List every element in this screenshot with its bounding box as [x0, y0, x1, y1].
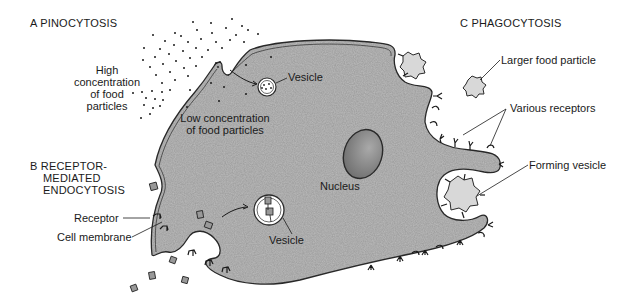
label-high-concentration: High concentration of food particles: [67, 64, 147, 112]
label-nucleus: Nucleus: [320, 180, 360, 192]
label-line: Low concentration: [175, 112, 275, 124]
label-receptor: Receptor: [74, 212, 119, 224]
heading-pinocytosis: A PINOCYTOSIS: [30, 17, 117, 29]
heading-phagocytosis: C PHAGOCYTOSIS: [460, 17, 562, 29]
label-line: B RECEPTOR-: [30, 160, 125, 172]
label-vesicle-receptor: Vesicle: [269, 234, 304, 246]
label-vesicle-pinocytosis: Vesicle: [288, 71, 323, 83]
label-line: particles: [67, 100, 147, 112]
label-various-receptors: Various receptors: [510, 102, 595, 114]
label-line: MEDIATED: [30, 172, 125, 184]
label-forming-vesicle: Forming vesicle: [529, 159, 606, 171]
label-line: of food: [67, 88, 147, 100]
cell-body: [151, 40, 500, 284]
label-line: concentration: [67, 76, 147, 88]
label-line: ENDOCYTOSIS: [30, 184, 125, 196]
label-line: High: [67, 64, 147, 76]
label-cell-membrane: Cell membrane: [57, 231, 132, 243]
heading-receptor-mediated: B RECEPTOR- MEDIATED ENDOCYTOSIS: [30, 160, 125, 196]
label-low-concentration: Low concentration of food particles: [175, 112, 275, 136]
endocytosis-diagram: [0, 0, 633, 302]
label-line: of food particles: [175, 124, 275, 136]
label-larger-food-particle: Larger food particle: [501, 54, 596, 66]
